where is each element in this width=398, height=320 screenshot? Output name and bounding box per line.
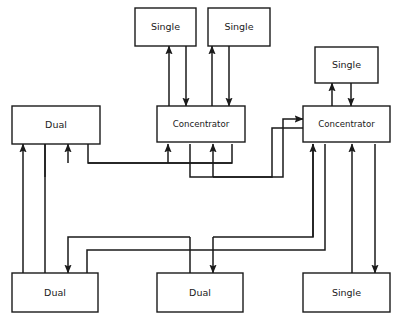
link-conc-right-trunk-down bbox=[213, 144, 313, 237]
node-label-single-bottom-right: Single bbox=[332, 287, 361, 298]
topology-canvas: SingleSingleSingleDualConcentratorConcen… bbox=[0, 0, 398, 320]
node-label-single-top-mid: Single bbox=[224, 21, 253, 32]
network-diagram: SingleSingleSingleDualConcentratorConcen… bbox=[0, 0, 398, 320]
node-label-single-top-left: Single bbox=[151, 21, 180, 32]
node-single-bottom-right[interactable]: Single bbox=[303, 273, 390, 312]
link-conc-left-to-dual-left bbox=[88, 144, 232, 163]
node-single-top-right[interactable]: Single bbox=[315, 47, 378, 83]
node-label-dual-bottom-left: Dual bbox=[44, 287, 66, 298]
node-label-concentrator-left: Concentrator bbox=[173, 119, 230, 129]
node-label-single-top-right: Single bbox=[332, 59, 361, 70]
node-label-dual-left: Dual bbox=[45, 119, 67, 130]
link-dual-left-to-conc-left bbox=[88, 144, 232, 163]
node-label-dual-bottom-mid: Dual bbox=[189, 287, 211, 298]
node-concentrator-left[interactable]: Concentrator bbox=[157, 106, 245, 142]
node-dual-bottom-left[interactable]: Dual bbox=[12, 273, 98, 312]
node-single-top-left[interactable]: Single bbox=[135, 8, 196, 46]
node-dual-left[interactable]: Dual bbox=[12, 106, 100, 144]
node-single-top-mid[interactable]: Single bbox=[208, 8, 270, 46]
node-dual-bottom-mid[interactable]: Dual bbox=[157, 273, 243, 312]
node-concentrator-right[interactable]: Concentrator bbox=[303, 106, 390, 142]
node-label-concentrator-right: Concentrator bbox=[318, 119, 375, 129]
